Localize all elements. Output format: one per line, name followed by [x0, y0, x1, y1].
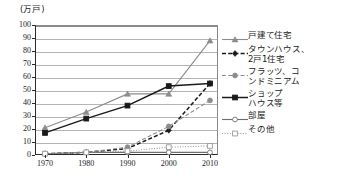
- y-axis-tick-label: 30: [23, 112, 31, 120]
- legend-marker-icon: [222, 89, 248, 100]
- gridline: [36, 78, 217, 79]
- chart-root: (万戸) 0102030405060708090100 戸建て住宅タウンハウス、…: [0, 0, 341, 183]
- legend-item-5[interactable]: 部屋: [222, 110, 340, 122]
- x-axis-tick-label: 1970: [25, 159, 65, 168]
- y-axis-tick-mark: [32, 25, 35, 26]
- legend-item-2[interactable]: タウンハウス、 2戸1住宅: [222, 44, 340, 64]
- gridline: [36, 65, 217, 66]
- y-axis-tick-mark: [32, 64, 35, 65]
- y-axis-tick-mark: [32, 103, 35, 104]
- x-axis-tick-mark: [210, 155, 211, 158]
- y-axis-tick-mark: [32, 129, 35, 130]
- x-axis-tick-label: 2000: [149, 159, 189, 168]
- x-axis-tick-label: 1980: [66, 159, 106, 168]
- y-axis-tick-label: 50: [23, 86, 31, 94]
- legend-label: フラッツ、コ ンドミニアム: [248, 66, 300, 86]
- gridline: [36, 26, 217, 27]
- gridline: [36, 143, 217, 144]
- x-axis-tick-mark: [86, 155, 87, 158]
- legend-label: その他: [248, 124, 274, 134]
- y-axis-tick-mark: [32, 116, 35, 117]
- gridline: [36, 130, 217, 131]
- x-axis-tick-mark: [45, 155, 46, 158]
- gridline: [36, 52, 217, 53]
- legend-label: 部屋: [248, 110, 266, 120]
- legend-label: タウンハウス、 2戸1住宅: [248, 44, 310, 64]
- legend-marker-icon: [222, 31, 248, 42]
- legend-item-1[interactable]: 戸建て住宅: [222, 30, 340, 42]
- y-axis-tick-label: 70: [23, 60, 31, 68]
- y-axis-tick-mark: [32, 38, 35, 39]
- legend-marker-icon: [222, 45, 248, 56]
- y-axis-tick-mark: [32, 77, 35, 78]
- chart-legend: 戸建て住宅タウンハウス、 2戸1住宅フラッツ、コ ンドミニアムショップ ハウス等…: [222, 30, 340, 138]
- y-axis-tick-label: 80: [23, 47, 31, 55]
- y-axis-tick-mark: [32, 142, 35, 143]
- y-axis-tick-label: 0: [27, 151, 31, 159]
- legend-item-6[interactable]: その他: [222, 124, 340, 136]
- y-axis-tick-mark: [32, 155, 35, 156]
- y-axis-tick-label: 20: [23, 125, 31, 133]
- y-axis-tick-label: 40: [23, 99, 31, 107]
- legend-item-4[interactable]: ショップ ハウス等: [222, 88, 340, 108]
- gridline: [36, 91, 217, 92]
- gridline: [36, 104, 217, 105]
- legend-marker-icon: [222, 111, 248, 122]
- plot-area: [35, 25, 218, 155]
- y-axis-labels: 0102030405060708090100: [0, 0, 33, 183]
- y-axis-tick-label: 100: [19, 21, 31, 29]
- y-axis-tick-mark: [32, 51, 35, 52]
- legend-label: 戸建て住宅: [248, 30, 292, 40]
- y-axis-tick-label: 10: [23, 138, 31, 146]
- y-axis-tick-label: 90: [23, 34, 31, 42]
- legend-item-3[interactable]: フラッツ、コ ンドミニアム: [222, 66, 340, 86]
- x-axis-tick-label: 2010: [190, 159, 230, 168]
- legend-label: ショップ ハウス等: [248, 88, 283, 108]
- x-axis-tick-label: 1990: [108, 159, 148, 168]
- legend-marker-icon: [222, 125, 248, 136]
- y-axis-tick-label: 60: [23, 73, 31, 81]
- x-axis-tick-mark: [128, 155, 129, 158]
- legend-marker-icon: [222, 67, 248, 78]
- gridline: [36, 117, 217, 118]
- y-axis-tick-mark: [32, 90, 35, 91]
- x-axis-tick-mark: [169, 155, 170, 158]
- gridline: [36, 39, 217, 40]
